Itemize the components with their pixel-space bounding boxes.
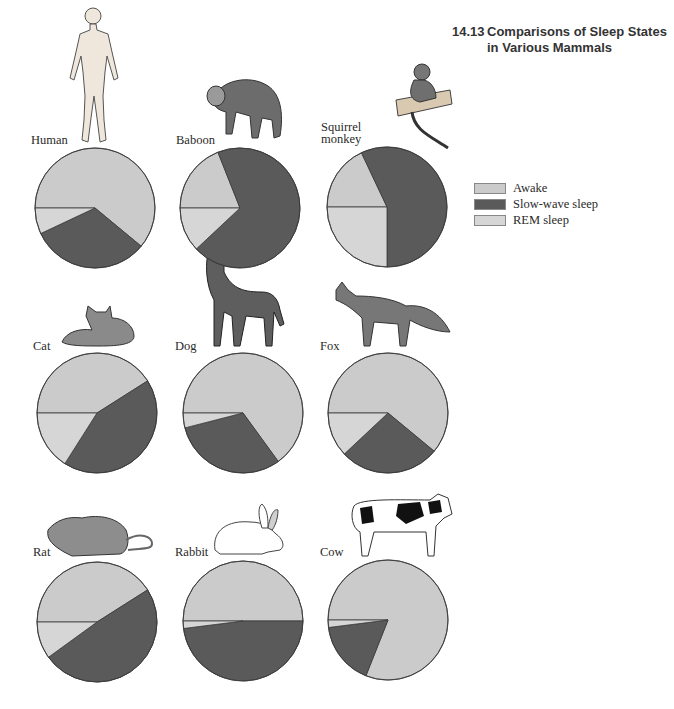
label-dog: Dog xyxy=(175,340,197,353)
squirrel-monkey-illustration-icon xyxy=(396,64,452,148)
pie-cow xyxy=(328,560,448,680)
pie-fox xyxy=(328,353,448,473)
legend: Awake Slow-wave sleep REM sleep xyxy=(474,180,598,228)
figure-title: 14.13Comparisons of Sleep States in Vari… xyxy=(452,24,667,56)
slow-wave-swatch-icon xyxy=(474,199,506,210)
fox-illustration-icon xyxy=(336,282,450,346)
label-rabbit: Rabbit xyxy=(175,546,208,559)
label-baboon: Baboon xyxy=(176,134,215,147)
label-cow: Cow xyxy=(320,546,344,559)
label-human: Human xyxy=(31,134,68,147)
figure-title-line1: Comparisons of Sleep States xyxy=(487,24,667,39)
pie-human xyxy=(35,148,155,268)
figure-title-line2: in Various Mammals xyxy=(452,40,667,56)
label-fox: Fox xyxy=(320,340,339,353)
pie-slice-slow-wave xyxy=(183,621,303,681)
baboon-illustration-icon xyxy=(207,80,282,138)
pie-dog xyxy=(183,353,303,473)
legend-item-awake: Awake xyxy=(474,180,598,196)
rem-swatch-icon xyxy=(474,215,506,226)
pie-baboon xyxy=(180,148,300,268)
legend-label: REM sleep xyxy=(513,213,569,228)
rat-illustration-icon xyxy=(48,517,152,557)
rabbit-illustration-icon xyxy=(215,504,283,554)
label-rat: Rat xyxy=(33,546,50,559)
figure-art xyxy=(0,0,674,709)
human-illustration-icon xyxy=(70,8,118,142)
legend-label: Awake xyxy=(513,181,547,196)
figure-number: 14.13 xyxy=(452,24,487,40)
pie-rabbit xyxy=(183,561,303,681)
label-squirrel-monkey-line2: monkey xyxy=(321,133,361,146)
figure-canvas: Human Baboon Squirrel monkey Cat Dog Fox… xyxy=(0,0,674,709)
pie-squirrel-monkey xyxy=(327,147,447,267)
pie-slice-rem xyxy=(327,207,387,267)
awake-swatch-icon xyxy=(474,183,506,194)
label-cat: Cat xyxy=(33,340,50,353)
pie-rat xyxy=(37,562,157,682)
cat-illustration-icon xyxy=(62,306,134,346)
legend-label: Slow-wave sleep xyxy=(513,197,598,212)
pie-cat xyxy=(37,353,157,473)
pie-slice-awake xyxy=(183,561,303,621)
legend-item-rem: REM sleep xyxy=(474,212,598,228)
cow-illustration-icon xyxy=(352,494,452,556)
pie-charts xyxy=(35,147,448,682)
legend-item-slow-wave: Slow-wave sleep xyxy=(474,196,598,212)
